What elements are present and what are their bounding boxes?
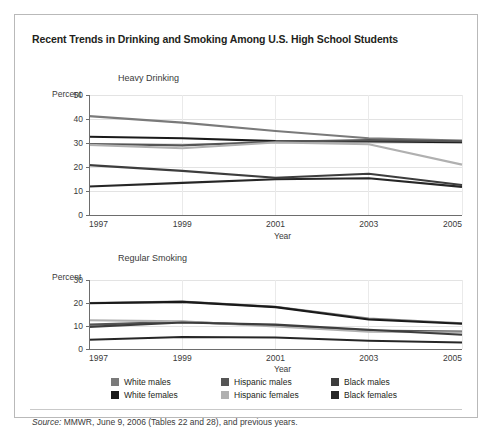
x-tick-label: 2001: [266, 353, 285, 363]
chart-regular-smoking: 010203019971999200120032005: [15, 15, 479, 419]
x-tick-label: 2003: [359, 353, 378, 363]
legend-item[interactable]: Hispanic males: [221, 377, 331, 387]
legend-swatch-icon: [111, 391, 119, 399]
source-text: MMWR, June 9, 2006 (Tables 22 and 28), a…: [61, 417, 297, 427]
legend-label: Hispanic females: [234, 390, 299, 400]
legend-item[interactable]: Hispanic females: [221, 390, 331, 400]
legend-swatch-icon: [331, 378, 339, 386]
legend-row: White femalesHispanic femalesBlack femal…: [111, 390, 441, 400]
legend-item[interactable]: White males: [111, 377, 221, 387]
source-note: Source: MMWR, June 9, 2006 (Tables 22 an…: [32, 417, 298, 427]
legend-label: Black males: [344, 377, 390, 387]
legend-item[interactable]: White females: [111, 390, 221, 400]
source-label: Source:: [32, 417, 61, 427]
x-tick-label: 1997: [89, 353, 108, 363]
y-tick-label: 10: [74, 321, 84, 331]
y-tick-label: 30: [74, 275, 84, 285]
y-tick-label: 20: [74, 298, 84, 308]
legend-item[interactable]: Black males: [331, 377, 441, 387]
chart-legend: White malesHispanic malesBlack malesWhit…: [111, 377, 441, 403]
legend-label: Hispanic males: [234, 377, 292, 387]
x-tick-label: 2005: [443, 353, 462, 363]
legend-swatch-icon: [221, 391, 229, 399]
legend-swatch-icon: [221, 378, 229, 386]
legend-label: White females: [124, 390, 178, 400]
legend-label: White males: [124, 377, 171, 387]
legend-swatch-icon: [111, 378, 119, 386]
y-tick-label: 0: [78, 344, 83, 354]
legend-label: Black females: [344, 390, 397, 400]
x-tick-label: 1999: [173, 353, 192, 363]
legend-swatch-icon: [331, 391, 339, 399]
legend-row: White malesHispanic malesBlack males: [111, 377, 441, 387]
legend-item[interactable]: Black females: [331, 390, 441, 400]
divider: [30, 409, 462, 410]
figure-frame: Recent Trends in Drinking and Smoking Am…: [14, 14, 478, 418]
